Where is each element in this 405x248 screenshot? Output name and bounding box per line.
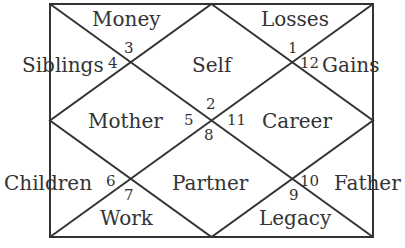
house-label-money: Money	[92, 9, 161, 29]
house-label-self: Self	[192, 55, 231, 75]
house-label-legacy: Legacy	[259, 208, 331, 228]
house-number-12: 12	[300, 56, 319, 71]
house-number-2: 2	[206, 97, 216, 112]
house-label-father: Father	[334, 173, 401, 193]
house-label-siblings: Siblings	[22, 55, 104, 75]
house-label-children: Children	[4, 173, 92, 193]
house-number-3: 3	[124, 41, 134, 56]
house-number-8: 8	[204, 128, 214, 143]
house-number-5: 5	[184, 113, 194, 128]
house-label-partner: Partner	[172, 173, 248, 193]
astrology-chart: Money Losses Siblings Self Gains Mother …	[0, 0, 405, 248]
chart-lines	[0, 0, 405, 248]
house-number-9: 9	[289, 188, 299, 203]
house-number-10: 10	[300, 174, 319, 189]
house-number-4: 4	[108, 56, 118, 71]
house-label-work: Work	[100, 208, 153, 228]
house-number-1: 1	[288, 41, 298, 56]
house-label-gains: Gains	[322, 55, 379, 75]
house-label-losses: Losses	[261, 9, 329, 29]
house-label-career: Career	[262, 111, 332, 131]
house-number-6: 6	[106, 174, 116, 189]
house-number-11: 11	[227, 113, 246, 128]
house-label-mother: Mother	[88, 111, 163, 131]
house-number-7: 7	[124, 188, 134, 203]
